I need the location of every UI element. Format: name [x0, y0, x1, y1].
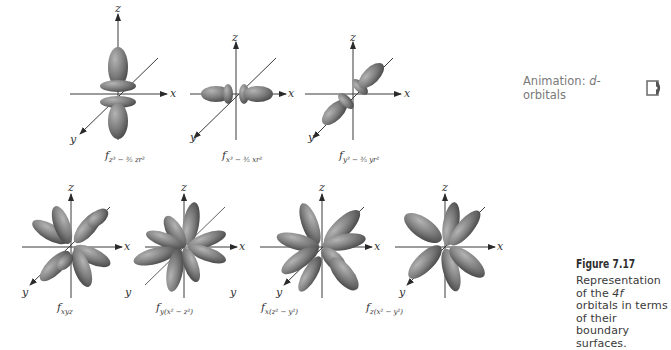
z-axis-label: z	[181, 182, 187, 193]
y-axis-label: y	[125, 287, 131, 298]
figure-caption-text: Representation of the 4f orbitals in ter…	[576, 275, 668, 350]
z-axis-label: z	[232, 32, 238, 43]
z-axis-label: z	[350, 32, 356, 43]
fxyz-orbital-diagram	[10, 170, 145, 300]
y-axis-label: y	[190, 132, 196, 143]
x-axis-label: x	[374, 241, 380, 252]
orbital-panel-fxyz: z x y	[10, 170, 145, 300]
cd-disc-icon	[646, 79, 665, 97]
x-axis-label: x	[497, 241, 503, 252]
x-axis-label: x	[170, 88, 176, 99]
x-axis-label: x	[124, 241, 130, 252]
fx3-orbital-diagram	[190, 0, 320, 145]
orbital-panel-fy3: z x y	[305, 0, 435, 145]
orbital-label-fy3: fy³ − ³⁄₅ yr²	[339, 150, 379, 164]
x-axis-label: x	[404, 88, 410, 99]
orbital-panel-fzx2y2: z x y	[395, 170, 530, 300]
figure-number: Figure 7.17	[576, 257, 652, 271]
orbital-label-fyx2z2: fy(x² − z²)	[156, 302, 193, 316]
y-axis-label: y	[399, 287, 405, 298]
z-axis-label: z	[115, 3, 121, 14]
orbital-panel-fx3: z x y	[190, 0, 320, 145]
orbital-label-fxz2y2: fx(z² − y²)	[261, 302, 298, 316]
animation-d-orbitals-link[interactable]: Animation: d-orbitals	[523, 74, 665, 102]
y-axis-label: y	[22, 287, 28, 298]
y-axis-label: y	[276, 287, 282, 298]
orbital-label-fxyz: fxyz	[57, 302, 73, 316]
y-axis-label: y	[70, 134, 76, 145]
orbital-label-fx3: fx³ − ³⁄₅ xr²	[222, 150, 262, 164]
fxz2y2-orbital-diagram	[260, 170, 395, 300]
animation-label: Animation: d-orbitals	[523, 74, 640, 102]
z-axis-label: z	[442, 182, 448, 193]
x-axis-label: x	[288, 88, 294, 99]
orbital-panel-fz3: z x y	[60, 0, 190, 145]
y-axis-label: y	[230, 287, 236, 298]
fzx2y2-orbital-diagram	[395, 170, 530, 300]
z-axis-label: z	[68, 182, 74, 193]
figure-caption: Figure 7.17 Representation of the 4f orb…	[576, 257, 671, 350]
fy3-orbital-diagram	[305, 0, 435, 145]
orbital-label-fzx2y2: fz(x² − y²)	[366, 302, 403, 316]
orbital-label-fz3: fz³ − ³⁄₅ zr²	[105, 150, 145, 164]
z-axis-label: z	[319, 182, 325, 193]
orbital-panel-fxz2y2: z x y	[260, 170, 395, 300]
y-axis-label: y	[308, 132, 314, 143]
x-axis-label: x	[239, 241, 245, 252]
fz3-orbital-diagram	[60, 0, 190, 145]
